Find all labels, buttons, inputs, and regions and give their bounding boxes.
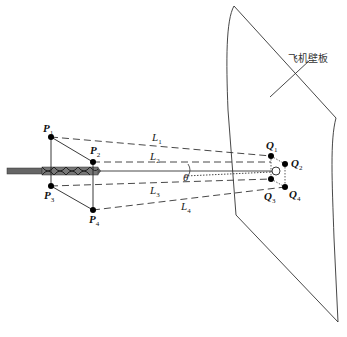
panel-label-leader (270, 60, 310, 97)
point-Q4 (282, 184, 288, 190)
panel-label: 飞机壁板 (288, 52, 328, 64)
label-L3: L3 (149, 184, 160, 199)
label-L1: L1 (151, 131, 162, 146)
label-P2: P2 (90, 144, 101, 159)
label-L2: L2 (149, 150, 160, 165)
point-Q2 (282, 161, 288, 167)
label-Q1: Q1 (266, 139, 278, 154)
drill-measurement-diagram: 飞机壁板 (0, 0, 347, 337)
normal-dotted-line (185, 172, 272, 176)
drill-bit (7, 167, 101, 175)
label-Q3: Q3 (264, 190, 276, 205)
q-quadrilateral (271, 156, 285, 187)
point-Q3 (268, 176, 274, 182)
label-P4: P4 (89, 213, 100, 228)
point-P2 (90, 159, 96, 165)
label-L4: L4 (180, 200, 191, 215)
label-P1: P1 (43, 122, 54, 137)
label-Q2: Q2 (291, 157, 303, 172)
label-theta: θ (183, 171, 189, 183)
target-hole-circle (272, 167, 280, 175)
line-L3 (51, 179, 271, 186)
label-Q4: Q4 (289, 188, 301, 203)
label-P3: P3 (44, 189, 55, 204)
